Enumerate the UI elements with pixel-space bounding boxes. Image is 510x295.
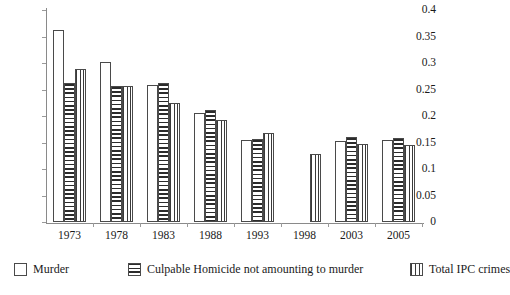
x-axis-tick-mark (140, 223, 141, 227)
bar (252, 139, 263, 222)
x-axis-tick-mark (281, 223, 282, 227)
bar-group-1998 (288, 10, 321, 222)
x-axis-line (46, 223, 424, 224)
legend-label: Total IPC crimes (429, 263, 510, 276)
x-axis-tick-mark (375, 223, 376, 227)
bar-group-2005 (382, 10, 415, 222)
bar (169, 103, 180, 222)
bar (100, 62, 111, 222)
legend-item: Total IPC crimes (410, 259, 510, 279)
x-axis-tick-mark (422, 223, 423, 227)
legend-swatch-icon (14, 263, 27, 276)
legend-swatch-icon (128, 263, 141, 276)
chart-legend: MurderCulpable Homicide not amounting to… (10, 259, 430, 281)
legend-item: Murder (14, 259, 69, 279)
x-axis-tick-mark (187, 223, 188, 227)
x-axis-tick-mark (328, 223, 329, 227)
bar (404, 145, 415, 222)
x-axis-tick-mark (234, 223, 235, 227)
bar (158, 83, 169, 222)
bar (310, 154, 321, 222)
bar (216, 120, 227, 222)
bar (263, 133, 274, 222)
bar (335, 141, 346, 222)
x-axis-tick-label: 2005 (369, 229, 429, 242)
x-axis-tick-mark (93, 223, 94, 227)
bar (393, 138, 404, 222)
plot-area (46, 10, 422, 222)
bar (147, 85, 158, 222)
y-axis-tick-mark (42, 222, 46, 223)
bar (64, 83, 75, 222)
bar (346, 137, 357, 222)
bar (194, 113, 205, 222)
bar (241, 140, 252, 222)
bar (357, 144, 368, 222)
legend-swatch-icon (410, 263, 423, 276)
bar (75, 69, 86, 222)
bar (205, 110, 216, 222)
bar-group-1988 (194, 10, 227, 222)
bar-group-1978 (100, 10, 133, 222)
bar-group-1983 (147, 10, 180, 222)
bar (111, 86, 122, 222)
bar (53, 30, 64, 222)
bar (382, 140, 393, 222)
legend-item: Culpable Homicide not amounting to murde… (128, 259, 363, 279)
bar-group-1993 (241, 10, 274, 222)
bar-group-2003 (335, 10, 368, 222)
legend-label: Culpable Homicide not amounting to murde… (147, 263, 363, 276)
legend-label: Murder (33, 263, 69, 276)
bar-group-1973 (53, 10, 86, 222)
bar (122, 86, 133, 222)
